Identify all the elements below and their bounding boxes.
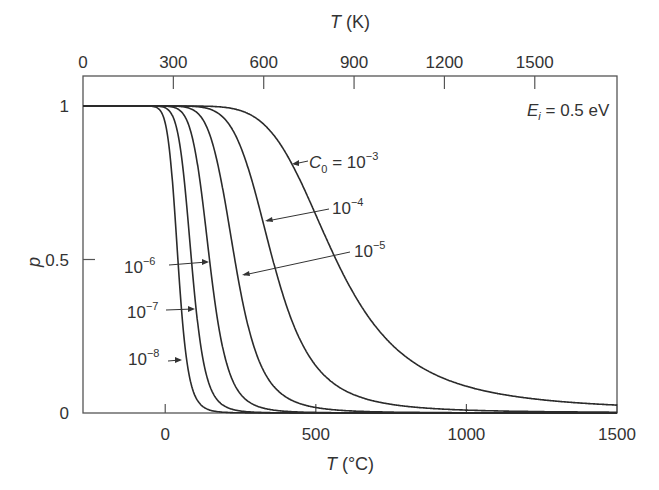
curve-c0-10-3: [83, 106, 617, 405]
y-tick-label: 1: [60, 97, 69, 116]
top-tick-label: 300: [159, 53, 187, 72]
svg-text:10−8: 10−8: [128, 347, 159, 369]
x-tick-label: 1000: [447, 425, 485, 444]
series-label-1e-8: 10−8: [128, 347, 182, 369]
y-axis-ticks: 00.51: [45, 97, 95, 423]
y-tick-label: 0.5: [45, 251, 69, 270]
curve-c0-10-4: [83, 106, 617, 412]
svg-text:C0 = 10−3: C0 = 10−3: [309, 150, 378, 175]
y-axis-title: p: [24, 257, 44, 268]
bottom-axis-title: T (°C): [326, 454, 374, 474]
svg-text:10−4: 10−4: [332, 196, 363, 218]
chart-canvas: 030060090012001500 050010001500 00.51 T …: [0, 0, 659, 490]
svg-text:10−5: 10−5: [354, 239, 385, 261]
series-label-1e-7: 10−7: [127, 300, 195, 322]
x-tick-label: 500: [302, 425, 330, 444]
top-tick-label: 0: [78, 53, 87, 72]
svg-text:10−6: 10−6: [124, 255, 155, 277]
top-tick-label: 1200: [426, 53, 464, 72]
top-axis-title: T (K): [330, 12, 370, 32]
x-tick-label: 0: [160, 425, 169, 444]
series-label-1e-6: 10−6: [124, 255, 209, 277]
top-tick-label: 900: [340, 53, 368, 72]
x-tick-label: 1500: [598, 425, 636, 444]
series-label-1e-5: 10−5: [242, 239, 385, 276]
y-tick-label: 0: [60, 404, 69, 423]
top-axis-ticks: 030060090012001500: [78, 53, 553, 89]
energy-annotation: Ei = 0.5 eV: [527, 101, 610, 122]
series-label-1e-3: C0 = 10−3: [292, 150, 378, 175]
top-tick-label: 1500: [516, 53, 554, 72]
series-label-1e-4: 10−4: [265, 196, 363, 222]
svg-text:10−7: 10−7: [127, 300, 158, 322]
top-tick-label: 600: [250, 53, 278, 72]
plot-frame: [83, 76, 617, 413]
